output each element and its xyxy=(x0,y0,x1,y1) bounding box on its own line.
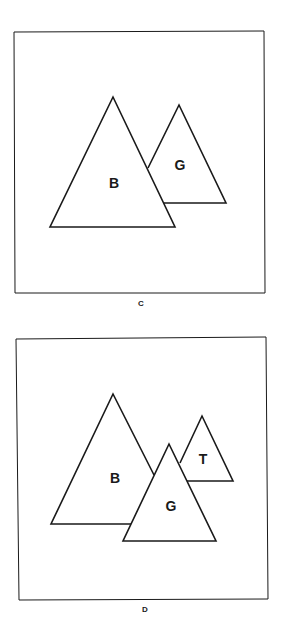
panel-d-frame xyxy=(16,337,268,600)
panel-d-label-g: G xyxy=(166,498,177,514)
panel-c-caption: C xyxy=(138,299,144,308)
panel-d-caption: D xyxy=(142,605,148,614)
panel-d-label-t: T xyxy=(199,451,208,467)
figure: B G C B G T D xyxy=(0,0,286,628)
panel-d-triangle-t xyxy=(180,416,233,481)
panel-d-label-b: B xyxy=(110,470,120,486)
panel-c-label-b: B xyxy=(109,175,119,191)
panel-d-triangle-b xyxy=(51,394,154,524)
panel-c-triangle-b xyxy=(50,97,175,227)
panel-c-label-g: G xyxy=(175,157,186,173)
panel-c: B G C xyxy=(14,31,265,308)
panel-d: B G T D xyxy=(16,337,268,614)
panel-c-triangle-g xyxy=(148,105,226,203)
